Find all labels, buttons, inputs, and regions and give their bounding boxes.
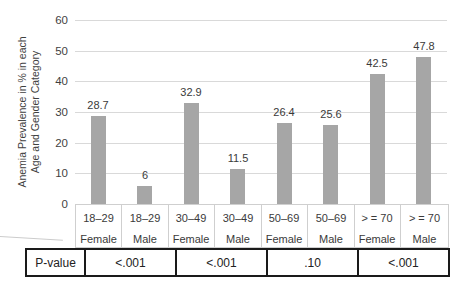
bar-value-label: 28.7 — [75, 99, 121, 112]
bar-6 — [370, 74, 385, 204]
y-tick-label: 10 — [40, 166, 68, 180]
bar-2 — [184, 103, 199, 204]
gridline-20 — [75, 143, 447, 144]
p-value-cell-3: <.001 — [357, 250, 448, 275]
bar-4 — [277, 123, 292, 204]
category-age-label: 50–69 — [261, 210, 307, 226]
category-gender-label: Female — [76, 231, 121, 247]
bar-value-label: 47.8 — [401, 40, 447, 53]
bar-value-label: 11.5 — [215, 152, 261, 165]
bar-3 — [230, 169, 245, 204]
bar-value-label: 25.6 — [308, 108, 354, 121]
p-value-cell-2: .10 — [266, 250, 357, 275]
category-cell: 30–49Female — [168, 204, 215, 248]
y-axis-title: Anemia Prevalence in % in each Age and G… — [16, 17, 42, 207]
category-cell: 18–29Female — [75, 204, 122, 248]
scan-artifact-line — [0, 236, 63, 241]
bar-value-label: 6 — [122, 169, 168, 182]
y-tick-label: 20 — [40, 136, 68, 150]
category-age-label: 30–49 — [215, 210, 261, 226]
category-gender-label: Male — [122, 231, 168, 247]
bar-0 — [91, 116, 106, 204]
category-gender-label: Male — [401, 231, 448, 247]
y-tick-label: 30 — [40, 105, 68, 119]
category-age-label: 18–29 — [76, 210, 121, 226]
y-tick-label: 40 — [40, 74, 68, 88]
category-age-label: 30–49 — [168, 210, 214, 226]
category-cell: 50–69Male — [308, 204, 355, 248]
category-cell: 30–49Male — [215, 204, 262, 248]
category-gender-label: Female — [168, 231, 214, 247]
bar-value-label: 32.9 — [168, 86, 214, 99]
category-age-label: > = 70 — [401, 210, 448, 226]
category-age-label: 50–69 — [308, 210, 354, 226]
anemia-prevalence-bar-chart: Anemia Prevalence in % in each Age and G… — [0, 0, 472, 295]
category-cell: 50–69Female — [261, 204, 308, 248]
bar-1 — [137, 186, 152, 204]
category-gender-label: Female — [354, 231, 400, 247]
category-age-label: 18–29 — [122, 210, 168, 226]
category-gender-label: Female — [261, 231, 307, 247]
gridline-60 — [75, 20, 447, 21]
p-value-row-label: P-value — [27, 250, 84, 275]
p-value-cell-1: <.001 — [175, 250, 266, 275]
y-tick-label: 0 — [40, 197, 68, 211]
bar-value-label: 42.5 — [354, 57, 400, 70]
gridline-40 — [75, 81, 447, 82]
category-gender-label: Male — [215, 231, 261, 247]
bar-7 — [416, 57, 431, 204]
category-cell: 18–29Male — [122, 204, 169, 248]
gridline-50 — [75, 51, 447, 52]
y-tick-label: 50 — [40, 44, 68, 58]
y-tick-label: 60 — [40, 13, 68, 27]
p-value-table: P-value <.001<.001.10<.001 — [25, 248, 450, 277]
bar-value-label: 26.4 — [261, 106, 307, 119]
category-gender-label: Male — [308, 231, 354, 247]
bar-5 — [323, 125, 338, 204]
category-age-label: > = 70 — [354, 210, 400, 226]
category-cell: > = 70Male — [401, 204, 449, 248]
p-value-cell-0: <.001 — [84, 250, 175, 275]
y-axis-title-line1: Anemia Prevalence in % in each — [16, 17, 29, 207]
category-cell: > = 70Female — [354, 204, 401, 248]
